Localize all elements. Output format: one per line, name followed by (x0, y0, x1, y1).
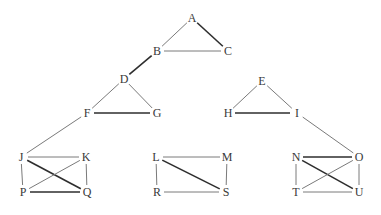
edge-e-h (233, 86, 257, 108)
node-k: K (82, 150, 91, 164)
node-g: G (153, 106, 162, 120)
node-c: C (224, 44, 232, 58)
node-p: P (20, 185, 27, 199)
node-a: A (188, 11, 197, 25)
node-m: M (222, 150, 233, 164)
edge-a-c (197, 23, 223, 47)
edge-k-q (86, 164, 87, 185)
node-e: E (258, 74, 265, 88)
node-f: F (84, 106, 91, 120)
node-q: Q (83, 185, 92, 199)
edge-b-d (129, 56, 151, 75)
nodes-layer: ABCDEFGHIJKPQLMRSNOTU (19, 11, 364, 199)
graph-diagram: ABCDEFGHIJKPQLMRSNOTU (0, 0, 381, 215)
node-j: J (19, 150, 24, 164)
edge-a-b (162, 23, 187, 46)
node-i: I (295, 106, 299, 120)
edge-i-o (303, 117, 354, 153)
edge-l-r (156, 164, 157, 185)
graph-canvas: ABCDEFGHIJKPQLMRSNOTU (0, 0, 381, 215)
node-l: L (152, 150, 159, 164)
node-d: D (120, 72, 129, 86)
edges-layer (21, 23, 359, 192)
node-n: N (292, 150, 301, 164)
edge-d-f (92, 84, 119, 109)
node-u: U (355, 185, 364, 199)
node-o: O (355, 150, 364, 164)
edge-l-s (162, 160, 219, 189)
node-s: S (223, 185, 230, 199)
node-r: R (153, 185, 161, 199)
edge-d-g (129, 84, 152, 108)
node-t: T (292, 185, 300, 199)
edge-m-s (226, 164, 227, 185)
edge-f-j (27, 117, 81, 153)
edge-e-i (267, 86, 292, 109)
node-b: B (153, 44, 161, 58)
node-h: H (224, 106, 233, 120)
edge-j-p (21, 164, 22, 185)
